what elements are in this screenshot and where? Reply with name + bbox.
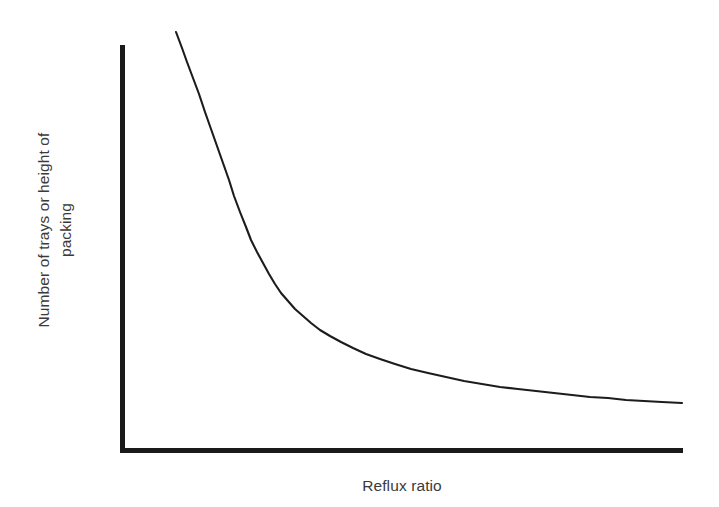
chart-background bbox=[0, 0, 719, 507]
chart-plot-area bbox=[0, 0, 719, 507]
x-axis-label: Reflux ratio bbox=[122, 477, 682, 495]
chart-figure: Number of trays or height of packing Ref… bbox=[0, 0, 719, 507]
